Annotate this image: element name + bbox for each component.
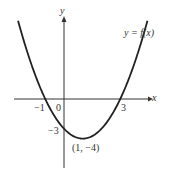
x-neg-tick-label: −1 [34, 103, 45, 113]
origin-label: 0 [56, 103, 61, 113]
x-axis-label: x [152, 93, 156, 103]
y-axis-label: y [60, 6, 64, 16]
parabola-curve [18, 21, 147, 139]
y-intercept-label: −3 [48, 126, 59, 136]
function-label: y = f(x) [124, 28, 154, 38]
y-axis-arrow-icon [62, 16, 67, 22]
x-pos-tick-label: 3 [121, 103, 126, 113]
vertex-label: (1, −4) [72, 143, 99, 153]
